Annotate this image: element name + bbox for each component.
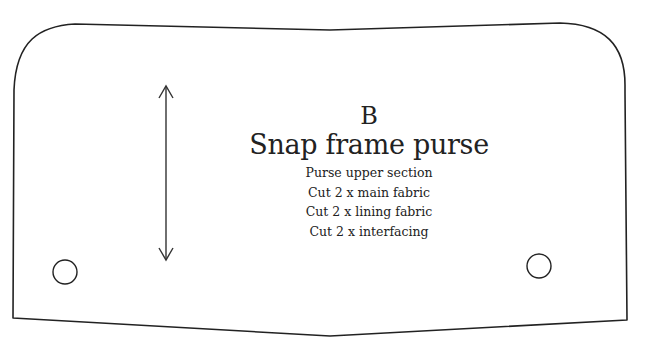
instruction-line: Cut 2 x main fabric <box>234 183 504 203</box>
grainline-arrow-icon <box>159 86 173 260</box>
snap-marker-right-icon <box>527 254 551 278</box>
pattern-label: B Snap frame purse Purse upper section C… <box>234 103 504 241</box>
piece-letter: B <box>234 103 504 129</box>
cutting-instructions: Purse upper section Cut 2 x main fabric … <box>234 163 504 241</box>
instruction-line: Purse upper section <box>234 163 504 183</box>
piece-title: Snap frame purse <box>234 129 504 161</box>
instruction-line: Cut 2 x interfacing <box>234 222 504 242</box>
instruction-line: Cut 2 x lining fabric <box>234 202 504 222</box>
snap-marker-left-icon <box>53 260 77 284</box>
